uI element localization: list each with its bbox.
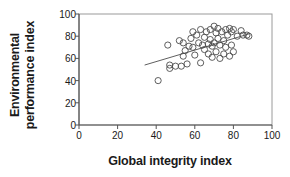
- data-point: [225, 32, 231, 38]
- data-points: [155, 23, 252, 84]
- data-point: [184, 61, 190, 67]
- data-point: [234, 33, 240, 39]
- data-point: [155, 78, 161, 84]
- data-point: [194, 32, 200, 38]
- data-point: [186, 43, 192, 49]
- data-point: [192, 52, 198, 58]
- trend-line: [145, 34, 249, 65]
- data-point: [178, 63, 184, 69]
- data-point: [188, 35, 194, 41]
- data-point: [190, 44, 196, 50]
- data-point: [223, 44, 229, 50]
- data-point: [209, 54, 215, 60]
- scatter-chart-figure: Environmental performance index 02040608…: [0, 0, 290, 177]
- data-point: [230, 49, 236, 55]
- data-point: [172, 63, 178, 69]
- data-point: [215, 35, 221, 41]
- data-point: [205, 51, 211, 57]
- data-point: [190, 29, 196, 35]
- data-point: [165, 42, 171, 48]
- plot-area: [0, 0, 290, 177]
- data-point: [221, 51, 227, 57]
- data-point: [228, 42, 234, 48]
- data-point: [213, 49, 219, 55]
- axis-tickmarks: [75, 14, 272, 129]
- data-point: [197, 26, 203, 32]
- data-point: [197, 60, 203, 66]
